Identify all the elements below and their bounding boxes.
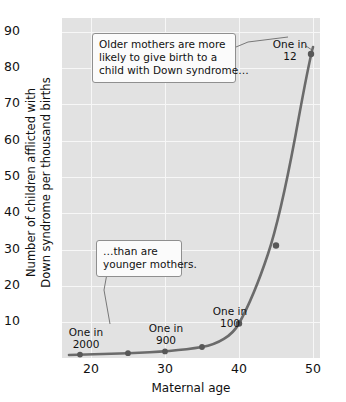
data-point-age-35 <box>199 344 205 350</box>
y-tick-label: 90 <box>0 25 20 38</box>
annotation-one-in-12-line-1: One in <box>258 38 322 50</box>
annotation-one-in-900-line-1: One in <box>134 322 198 334</box>
y-tick-label: 30 <box>0 243 20 256</box>
down-syndrome-incidence-chart: 90 80 70 60 50 40 30 20 10 20 30 40 50 M… <box>0 0 346 402</box>
y-tick-label: 60 <box>0 134 20 147</box>
annotation-one-in-100-line-2: 100 <box>198 317 262 329</box>
x-tick-label: 20 <box>71 362 111 376</box>
y-tick-label: 20 <box>0 279 20 292</box>
data-point-age-45 <box>273 242 279 248</box>
y-tick-label: 80 <box>0 61 20 74</box>
y-tick-label: 70 <box>0 97 20 110</box>
annotation-one-in-100: One in 100 <box>198 305 262 329</box>
annotation-one-in-2000: One in 2000 <box>54 326 118 350</box>
annotation-one-in-900-line-2: 900 <box>134 334 198 346</box>
annotation-one-in-2000-line-1: One in <box>54 326 118 338</box>
data-point-age-18 <box>77 352 83 358</box>
y-tick-label: 50 <box>0 170 20 183</box>
x-axis-title: Maternal age <box>62 381 320 395</box>
callout-younger-mothers: …than are younger mothers. <box>96 240 182 277</box>
data-point-age-25 <box>125 350 131 356</box>
y-tick-label: 40 <box>0 206 20 219</box>
y-axis-title-line-2: Down syndrome per thousand births <box>38 49 53 317</box>
x-tick-label: 30 <box>145 362 185 376</box>
annotation-one-in-100-line-1: One in <box>198 305 262 317</box>
y-tick-label: 10 <box>0 315 20 328</box>
y-axis-title: Number of children afflicted with Down s… <box>24 49 53 317</box>
data-point-age-30 <box>162 349 168 355</box>
callout-older-mothers: Older mothers are more likely to give bi… <box>92 33 236 83</box>
callout-younger-line-1: …than are <box>103 245 175 258</box>
x-tick-label: 40 <box>219 362 259 376</box>
annotation-one-in-12-line-2: 12 <box>258 50 322 62</box>
callout-younger-line-2: younger mothers. <box>103 258 175 271</box>
callout-older-line-3: child with Down syndrome… <box>99 64 229 77</box>
annotation-one-in-12: One in 12 <box>258 38 322 62</box>
x-tick-label: 50 <box>293 362 333 376</box>
annotation-one-in-2000-line-2: 2000 <box>54 338 118 350</box>
annotation-one-in-900: One in 900 <box>134 322 198 346</box>
y-axis-title-line-1: Number of children afflicted with <box>24 49 39 317</box>
callout-older-line-2: likely to give birth to a <box>99 51 229 64</box>
callout-older-line-1: Older mothers are more <box>99 38 229 51</box>
